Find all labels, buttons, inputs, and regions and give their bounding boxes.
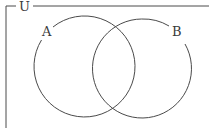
set-a-label: A bbox=[41, 24, 52, 39]
set-b-label: B bbox=[172, 24, 182, 39]
venn-diagram: U A B bbox=[0, 0, 209, 128]
universe-label: U bbox=[19, 0, 30, 14]
